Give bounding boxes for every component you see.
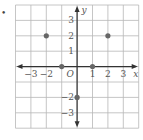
y-tick-label: 2: [68, 31, 74, 41]
x-tick-label: 3: [120, 69, 126, 79]
x-axis-left-arrow-icon: [17, 64, 23, 69]
y-tick-label: 1: [68, 46, 74, 56]
coordinate-plane: −3−2123321−2−3Oxy: [0, 0, 143, 140]
tick-labels: −3−2123321−2−3Oxy: [24, 5, 138, 118]
data-point: [59, 64, 64, 69]
x-tick-label: −2: [40, 69, 53, 79]
x-axis-label: x: [133, 69, 138, 79]
x-tick-label: −3: [24, 69, 38, 79]
data-point: [105, 33, 110, 38]
y-axis-up-arrow-icon: [75, 6, 80, 12]
y-tick-label: −2: [61, 92, 74, 102]
data-point: [90, 64, 95, 69]
y-axis-label: y: [81, 5, 88, 15]
data-point: [75, 95, 80, 100]
origin-label: O: [66, 69, 74, 79]
axes: [17, 6, 138, 127]
y-tick-label: 3: [68, 15, 74, 25]
x-tick-label: 2: [105, 69, 111, 79]
y-axis-down-arrow-icon: [75, 121, 80, 127]
data-point: [44, 33, 49, 38]
x-tick-label: 1: [90, 69, 96, 79]
y-tick-label: −3: [61, 108, 75, 118]
